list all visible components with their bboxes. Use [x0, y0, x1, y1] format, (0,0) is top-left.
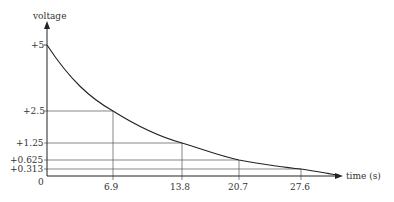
y-tick-1-25: +1.25 — [16, 138, 44, 148]
y-axis-arrow-icon — [44, 21, 50, 29]
decay-curve — [47, 45, 337, 175]
y-axis-label: voltage — [32, 11, 66, 21]
x-tick-20-7: 20.7 — [228, 182, 248, 192]
x-axis-arrow-icon — [335, 173, 343, 179]
x-axis-label: time (s) — [346, 171, 381, 181]
chart: voltage +5 +2.5 +1.25 +0.625 +0.313 0 6.… — [0, 0, 394, 202]
y-tick-0-313: +0.313 — [10, 164, 44, 174]
origin-label: 0 — [38, 177, 44, 187]
x-tick-6-9: 6.9 — [104, 182, 119, 192]
y-tick-5: +5 — [31, 40, 45, 50]
y-tick-2-5: +2.5 — [23, 106, 45, 116]
vertical-guides — [113, 111, 301, 180]
x-tick-13-8: 13.8 — [170, 182, 190, 192]
x-tick-27-6: 27.6 — [290, 182, 310, 192]
